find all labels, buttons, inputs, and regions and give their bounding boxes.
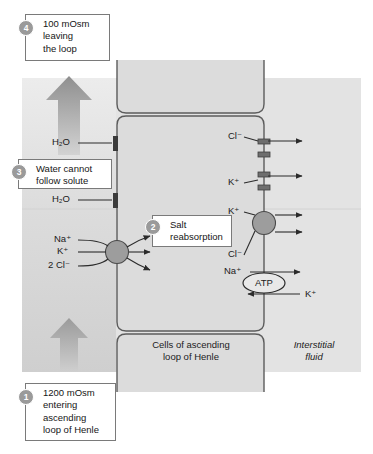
- cl-channel-bar-b: [258, 152, 270, 157]
- callout-1-text: 1200 mOsm entering ascending loop of Hen…: [43, 387, 112, 436]
- callout-2-text: Salt reabsorption: [170, 219, 228, 244]
- h2o-upper-label: H₂O: [52, 136, 70, 148]
- callout-3-text: Water cannot follow solute: [36, 163, 108, 188]
- callout-4-text: 100 mOsm leaving the loop: [43, 18, 106, 55]
- kcc-cotransporter: [253, 212, 276, 235]
- callout-2-number: 2: [145, 219, 161, 235]
- callout-3-number: 3: [11, 164, 27, 180]
- figure-canvas: 100 mOsm leaving the loop 4 Water cannot…: [0, 0, 373, 454]
- atp-pump-label: ATP: [250, 277, 278, 289]
- cl-basolateral-top-label: Cl⁻: [228, 130, 242, 142]
- tight-junction-lower: [113, 193, 118, 208]
- cl-cotransport-label: Cl⁻: [228, 248, 242, 260]
- callout-1-number: 1: [18, 389, 34, 405]
- k-pump-label: K⁺: [305, 288, 316, 300]
- h2o-lower-label: H₂O: [52, 193, 70, 205]
- callout-3[interactable]: Water cannot follow solute: [18, 159, 112, 189]
- k-cotransport-label: K⁺: [228, 205, 239, 217]
- k-channel-bar-b: [258, 185, 270, 190]
- callout-4-number: 4: [18, 20, 34, 36]
- cells-region-label: Cells of ascending loop of Henle: [125, 339, 257, 363]
- nkcc2-transporter: [106, 241, 129, 264]
- na-pump-label: Na⁺: [224, 265, 241, 277]
- k-basolateral-mid-label: K⁺: [228, 176, 239, 188]
- na-apical-label: Na⁺: [54, 233, 71, 245]
- callout-1[interactable]: 1200 mOsm entering ascending loop of Hen…: [25, 383, 116, 441]
- interstitial-region-label: Interstitial fluid: [274, 339, 354, 363]
- callout-2[interactable]: Salt reabsorption: [152, 215, 232, 247]
- tight-junction-upper: [113, 136, 118, 151]
- callout-4[interactable]: 100 mOsm leaving the loop: [25, 14, 110, 61]
- cl-apical-label: 2 Cl⁻: [48, 259, 70, 271]
- k-apical-label: K⁺: [57, 245, 68, 257]
- cell-above: [117, 60, 264, 113]
